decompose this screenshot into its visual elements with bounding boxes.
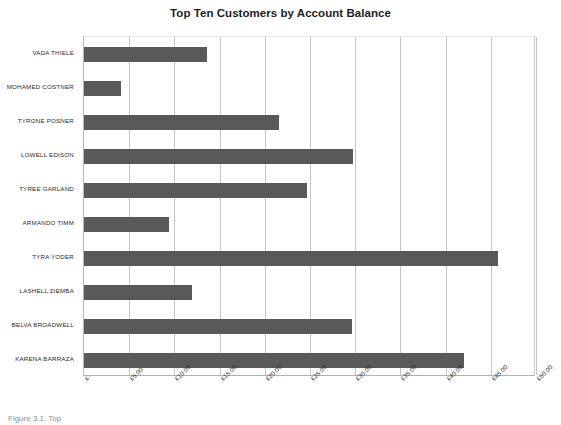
bar-row (84, 275, 192, 309)
chart-title: Top Ten Customers by Account Balance (0, 7, 561, 19)
bars-layer (84, 37, 534, 375)
bar-row (84, 37, 207, 71)
bar (84, 115, 279, 130)
chart-figure: Top Ten Customers by Account Balance VAD… (0, 0, 561, 425)
bar-row (84, 139, 353, 173)
bar (84, 183, 307, 198)
bar (84, 149, 353, 164)
value-axis-tick-labels: £-£5.00£10.00£15.00£20.00£25.00£30.00£35… (83, 377, 535, 417)
bar (84, 319, 352, 334)
plot-area (83, 36, 535, 376)
bar (84, 285, 192, 300)
gridline (536, 37, 537, 375)
figure-caption-fragment: Figure 3.1: Top (8, 414, 61, 425)
category-axis-label: VADA THIELE (32, 36, 74, 70)
category-axis-label: TYRA YODER (32, 240, 74, 274)
category-axis-label: LASHELL ZIEMBA (20, 274, 75, 308)
category-axis-label: TYREE GARLAND (19, 172, 74, 206)
bar (84, 47, 207, 62)
category-axis-label: ARMANDO TIMM (23, 206, 74, 240)
bar-row (84, 71, 121, 105)
bar (84, 81, 121, 96)
bar (84, 251, 498, 266)
category-axis-label: KARENA BARRAZA (15, 342, 74, 376)
category-axis-label: MOHAMED COSTNER (7, 70, 74, 104)
bar-row (84, 105, 279, 139)
category-axis-label: TYRONE POSNER (18, 104, 74, 138)
category-axis-label: LOWELL EDISON (21, 138, 74, 172)
bar (84, 217, 169, 232)
bar-row (84, 309, 352, 343)
bar-row (84, 241, 498, 275)
value-axis-tick-label: £50.00 (535, 363, 554, 382)
bar-row (84, 173, 307, 207)
bar-row (84, 207, 169, 241)
category-axis-label: BELVA BROADWELL (12, 308, 74, 342)
category-axis-labels: VADA THIELEMOHAMED COSTNERTYRONE POSNERL… (0, 36, 79, 376)
